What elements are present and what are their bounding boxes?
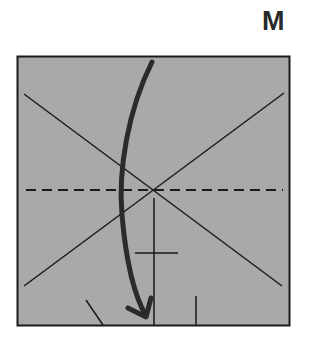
origami-diagram xyxy=(0,0,319,351)
